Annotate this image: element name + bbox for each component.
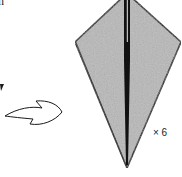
turn-over-arrow-icon xyxy=(5,101,62,125)
origami-diagram xyxy=(0,0,182,177)
repeat-count-label: × 6 xyxy=(153,127,167,138)
kite-shape xyxy=(75,0,181,168)
letter-fragment: n xyxy=(0,0,4,9)
partial-arrow-mark xyxy=(0,84,4,91)
